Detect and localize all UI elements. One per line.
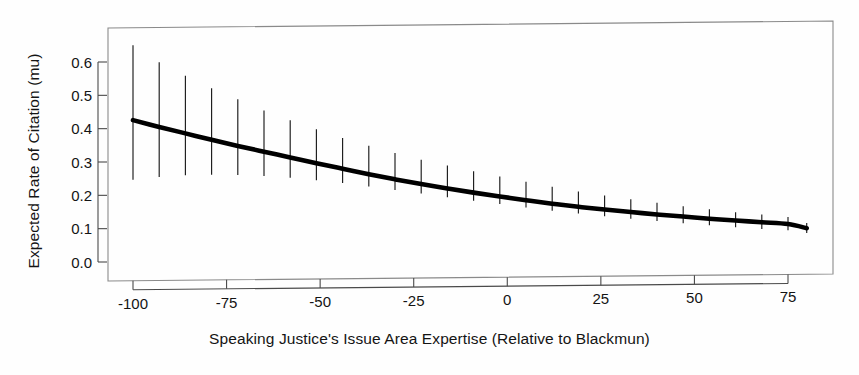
x-tick-label: -50 xyxy=(309,293,331,310)
y-tick-label: 0.0 xyxy=(71,254,92,271)
fitted-curve xyxy=(133,120,807,228)
y-tick-label: 0.6 xyxy=(71,54,92,71)
y-axis: 0.00.10.20.30.40.50.6 xyxy=(71,54,107,271)
x-tick-label: -25 xyxy=(403,292,425,309)
x-tick-label: -75 xyxy=(216,294,238,311)
error-bars xyxy=(133,45,807,233)
plot-frame xyxy=(108,21,833,281)
y-tick-label: 0.3 xyxy=(71,154,92,171)
x-tick-label: 25 xyxy=(593,290,610,307)
expected-citation-curve xyxy=(133,120,807,228)
x-axis-title: Speaking Justice's Issue Area Expertise … xyxy=(0,330,859,348)
y-tick-label: 0.1 xyxy=(71,220,92,237)
y-axis-title: Expected Rate of Citation (mu) xyxy=(25,31,43,291)
chart-canvas: 0.00.10.20.30.40.50.6 -100-75-50-2502550… xyxy=(0,0,859,375)
figure-container: 0.00.10.20.30.40.50.6 -100-75-50-2502550… xyxy=(0,0,859,375)
x-tick-label: -100 xyxy=(118,295,148,312)
x-tick-label: 50 xyxy=(686,289,703,306)
y-tick-label: 0.5 xyxy=(71,87,92,104)
y-tick-label: 0.4 xyxy=(71,120,92,137)
x-tick-label: 75 xyxy=(780,288,797,305)
y-tick-label: 0.2 xyxy=(71,187,92,204)
x-tick-label: 0 xyxy=(503,291,511,308)
